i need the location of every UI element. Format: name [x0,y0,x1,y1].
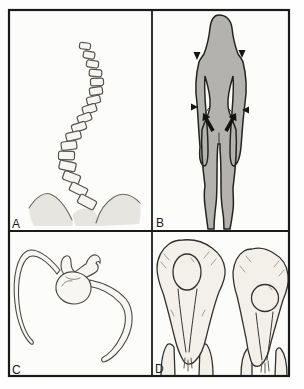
four-panel-illustration: A B C D [0,0,304,389]
medical-figure: A B C D [0,0,304,389]
panel-a-label: A [12,217,20,231]
head-top [173,254,201,290]
panel-b-label: B [156,216,164,230]
vertebra [61,140,77,150]
vertebra-body [56,272,91,304]
vertebra [83,51,96,60]
vertebra [90,78,103,86]
panel-d-label: D [155,362,164,376]
vertebra [86,60,99,69]
vertebra [89,69,102,77]
head-top [252,285,279,312]
vertebra [79,42,91,50]
vertebra [89,86,103,95]
vertebra [58,151,74,160]
panel-c-label: C [12,363,21,377]
